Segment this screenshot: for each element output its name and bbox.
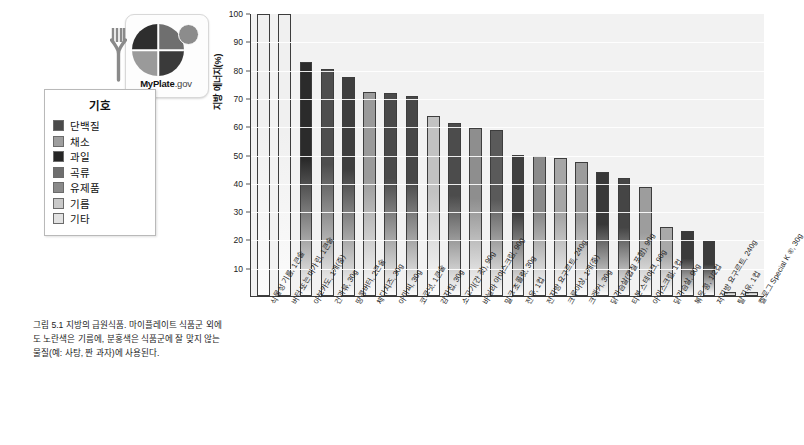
y-tick-label: 60: [234, 122, 243, 132]
dairy-circle-icon: [178, 24, 199, 45]
plate-quadrant-protein: [158, 50, 184, 76]
bar-7: [406, 96, 419, 296]
legend-item-5: 기름: [53, 196, 147, 212]
legend-item-label: 곡류: [70, 165, 90, 180]
y-tick-label: 40: [234, 179, 243, 189]
logo-brand: MyPlate: [140, 78, 175, 89]
gridline: [251, 127, 764, 128]
legend: 기호 단백질채소과일곡류유제품기름기타: [44, 89, 156, 236]
y-tick-label: 90: [234, 37, 243, 47]
legend-swatch-icon: [53, 198, 64, 209]
legend-swatch-icon: [53, 167, 64, 178]
legend-swatch-icon: [53, 136, 64, 147]
legend-item-6: 기타: [53, 211, 147, 227]
legend-item-label: 기름: [70, 196, 90, 211]
legend-swatch-icon: [53, 120, 64, 131]
y-tick-label: 20: [234, 235, 243, 245]
legend-swatch-icon: [53, 151, 64, 162]
logo-domain: .gov: [175, 78, 192, 89]
legend-item-1: 채소: [53, 134, 147, 150]
legend-item-0: 단백질: [53, 118, 147, 134]
legend-item-label: 단백질: [70, 118, 100, 133]
fork-icon: [110, 26, 127, 82]
gridline: [251, 156, 764, 157]
legend-items: 단백질채소과일곡류유제품기름기타: [53, 118, 147, 227]
y-tick-label: 10: [234, 264, 243, 274]
y-axis-ticks: 100908070605040302010: [220, 14, 246, 297]
legend-title: 기호: [53, 97, 147, 113]
legend-item-2: 과일: [53, 149, 147, 165]
legend-item-label: 유제품: [70, 180, 100, 195]
y-tick-label: 50: [234, 151, 243, 161]
plate-quadrant-fruits: [132, 24, 158, 50]
y-tick-label: 100: [229, 9, 243, 19]
legend-item-label: 채소: [70, 134, 90, 149]
logo-wordmark: MyPlate.gov: [125, 78, 207, 89]
plate-quadrant-grains: [132, 50, 158, 76]
bar-chart: 지방 에너지(%) 100908070605040302010 식물성 기름, …: [212, 14, 764, 314]
legend-item-label: 기타: [70, 211, 90, 226]
legend-swatch-icon: [53, 213, 64, 224]
gridline: [251, 99, 764, 100]
gridline: [251, 212, 764, 213]
legend-item-4: 유제품: [53, 180, 147, 196]
myplate-logo: MyPlate.gov: [108, 10, 208, 98]
y-tick-label: 70: [234, 94, 243, 104]
legend-item-3: 곡류: [53, 165, 147, 181]
gridline: [251, 184, 764, 185]
bar-4: [342, 77, 355, 296]
plate-icon: [132, 24, 184, 76]
plate-divider-horizontal: [132, 49, 184, 51]
legend-item-label: 과일: [70, 149, 90, 164]
gridline: [251, 42, 764, 43]
legend-swatch-icon: [53, 182, 64, 193]
x-axis-labels: 식물성 기름, 1큰술버터 또는 마가린, 1큰술아보카도, 1개(중)건과류,…: [250, 300, 764, 445]
gridline: [251, 71, 764, 72]
figure-caption: 그림 5.1 지방의 급원식품. 마이플레이트 식품군 외에도 노란색은 기름에…: [33, 318, 228, 361]
y-tick-label: 30: [234, 207, 243, 217]
y-tick-label: 80: [234, 66, 243, 76]
